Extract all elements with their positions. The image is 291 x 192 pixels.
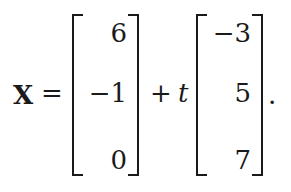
plus-sign: + [150,80,172,106]
right-bracket [252,14,263,176]
vector-entry: 7 [201,147,251,173]
right-bracket [128,14,139,176]
vector-entry: −1 [77,80,127,106]
vector-entry: 6 [77,20,127,46]
period: . [268,82,276,108]
lhs-variable: X [13,80,33,110]
equals-sign: = [41,80,63,106]
vector-entry: 0 [77,147,127,173]
vector-entry: −3 [201,20,251,46]
parameter-t: t [178,80,188,106]
vector-entry: 5 [201,80,251,106]
